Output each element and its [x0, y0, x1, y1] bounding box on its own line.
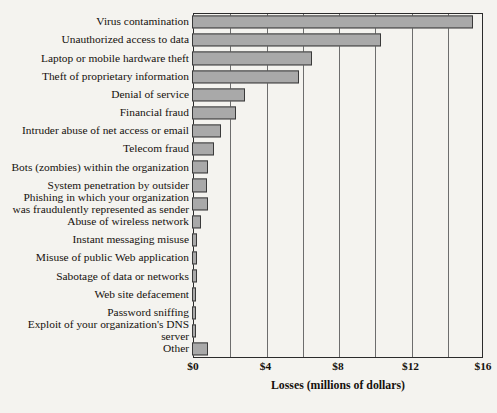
category-label: Unauthorized access to data: [0, 34, 191, 46]
x-tick-label: $16: [474, 360, 491, 372]
category-label: Laptop or mobile hardware theft: [0, 53, 191, 65]
bar-row: Exploit of your organization's DNS serve…: [0, 322, 497, 340]
category-label: Exploit of your organization's DNS serve…: [0, 319, 191, 342]
bar-cell: [191, 213, 497, 231]
bar-cell: [191, 285, 497, 303]
bar-cell: [191, 195, 497, 213]
chart-page: Virus contaminationUnauthorized access t…: [0, 0, 497, 413]
x-tick-label: $0: [187, 360, 198, 372]
category-label: Financial fraud: [0, 107, 191, 119]
bar-row: Other: [0, 340, 497, 358]
category-label: Denial of service: [0, 89, 191, 101]
bar-rows: Virus contaminationUnauthorized access t…: [0, 13, 497, 358]
bar-row: Telecom fraud: [0, 140, 497, 158]
bar[interactable]: [192, 324, 196, 337]
bar-row: Bots (zombies) within the organization: [0, 158, 497, 176]
bar[interactable]: [192, 179, 207, 192]
bar-row: Sabotage of data or networks: [0, 267, 497, 285]
bar[interactable]: [192, 306, 196, 319]
bar[interactable]: [192, 270, 197, 283]
category-label: Abuse of wireless network: [0, 216, 191, 228]
bar-cell: [191, 86, 497, 104]
bar[interactable]: [192, 143, 214, 156]
bar-row: Denial of service: [0, 86, 497, 104]
bar-cell: [191, 249, 497, 267]
category-label: Intruder abuse of net access or email: [0, 125, 191, 137]
bar-row: Laptop or mobile hardware theft: [0, 49, 497, 67]
bar[interactable]: [192, 70, 299, 83]
bar[interactable]: [192, 288, 196, 301]
bar[interactable]: [192, 161, 208, 174]
bar-row: Theft of proprietary information: [0, 67, 497, 85]
category-label: Telecom fraud: [0, 143, 191, 155]
bar-cell: [191, 140, 497, 158]
bar-cell: [191, 67, 497, 85]
bar[interactable]: [192, 215, 201, 228]
category-label: Web site defacement: [0, 289, 191, 301]
x-tick-label: $12: [402, 360, 419, 372]
bar-row: Intruder abuse of net access or email: [0, 122, 497, 140]
x-tick-label: $8: [332, 360, 343, 372]
bar[interactable]: [192, 52, 312, 65]
category-label: Bots (zombies) within the organization: [0, 162, 191, 174]
bar[interactable]: [192, 124, 221, 137]
bar-cell: [191, 104, 497, 122]
category-label: Instant messaging misuse: [0, 234, 191, 246]
bar-row: Misuse of public Web application: [0, 249, 497, 267]
bar-cell: [191, 158, 497, 176]
bar[interactable]: [192, 197, 208, 210]
category-label: Theft of proprietary information: [0, 71, 191, 83]
bar-row: Unauthorized access to data: [0, 31, 497, 49]
bar[interactable]: [192, 252, 197, 265]
bar-row: Virus contamination: [0, 13, 497, 31]
category-label: System penetration by outsider: [0, 180, 191, 192]
bar[interactable]: [192, 106, 236, 119]
bar-cell: [191, 322, 497, 340]
bar-cell: [191, 13, 497, 31]
category-label: Phishing in which your organization was …: [0, 192, 191, 215]
category-label: Sabotage of data or networks: [0, 271, 191, 283]
bar-row: Web site defacement: [0, 285, 497, 303]
category-label: Other: [0, 343, 191, 355]
category-label: Misuse of public Web application: [0, 252, 191, 264]
bar-cell: [191, 31, 497, 49]
bar-cell: [191, 340, 497, 358]
x-axis-ticks: $0$4$8$12$16: [0, 360, 497, 376]
bar-row: Financial fraud: [0, 104, 497, 122]
bar[interactable]: [192, 233, 197, 246]
bar-row: Phishing in which your organization was …: [0, 195, 497, 213]
bar-row: Instant messaging misuse: [0, 231, 497, 249]
bar[interactable]: [192, 16, 473, 29]
bar[interactable]: [192, 88, 245, 101]
bar-cell: [191, 122, 497, 140]
bar-cell: [191, 304, 497, 322]
bar-cell: [191, 49, 497, 67]
bar-cell: [191, 176, 497, 194]
bar[interactable]: [192, 34, 381, 47]
category-label: Password sniffing: [0, 307, 191, 319]
category-label: Virus contamination: [0, 16, 191, 28]
bar-cell: [191, 231, 497, 249]
x-axis-title: Losses (millions of dollars): [193, 378, 483, 393]
bar-row: Abuse of wireless network: [0, 213, 497, 231]
bar-cell: [191, 267, 497, 285]
x-tick-label: $4: [260, 360, 271, 372]
bar[interactable]: [192, 342, 208, 355]
